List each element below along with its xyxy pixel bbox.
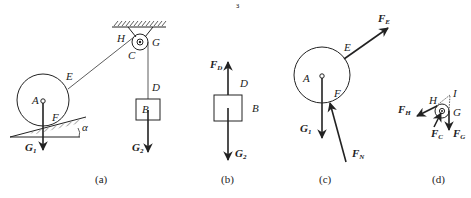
fn-arrow bbox=[330, 103, 346, 162]
fh-arrow bbox=[417, 106, 437, 116]
diagram-canvas: H G C E D B A F α G1 G2 (a) FD D B G2 (b… bbox=[0, 0, 471, 198]
label-g-d: G bbox=[453, 106, 461, 118]
label-a: A bbox=[31, 94, 39, 106]
label-d: D bbox=[151, 81, 160, 93]
label-fn: FN bbox=[351, 147, 365, 161]
label-d-b: D bbox=[239, 77, 248, 89]
caption-c: (c) bbox=[319, 173, 332, 186]
label-h-d: H bbox=[428, 94, 438, 106]
panel-c: FE E A F G1 FN (c) bbox=[294, 12, 390, 186]
label-g1: G1 bbox=[25, 141, 36, 155]
label-fe: FE bbox=[377, 12, 390, 26]
label-alpha: α bbox=[82, 121, 88, 133]
caption-b: (b) bbox=[221, 173, 234, 186]
label-g2: G2 bbox=[132, 141, 144, 155]
label-fg: FG bbox=[452, 127, 465, 141]
panel-d: H I G FH FC FG (d) bbox=[397, 87, 465, 186]
label-fh: FH bbox=[397, 103, 411, 117]
label-b-b: B bbox=[252, 102, 259, 114]
caption-d: (d) bbox=[432, 173, 445, 186]
label-e: E bbox=[65, 70, 73, 82]
label-c: C bbox=[128, 49, 136, 61]
label-f: F bbox=[51, 111, 59, 123]
label-f-c: F bbox=[333, 87, 341, 99]
caption-a: (a) bbox=[95, 173, 108, 186]
label-a-c: A bbox=[302, 72, 310, 84]
incline-plane bbox=[10, 117, 86, 137]
stray-mark: ɜ bbox=[236, 1, 240, 10]
panel-a: H G C E D B A F α G1 G2 (a) bbox=[10, 21, 166, 186]
pulley-c bbox=[132, 34, 148, 50]
rope-he bbox=[68, 37, 134, 89]
label-i: I bbox=[452, 87, 458, 99]
label-fc: FC bbox=[430, 127, 443, 141]
label-g1-c: G1 bbox=[300, 122, 311, 136]
panel-b: FD D B G2 (b) ɜ bbox=[209, 1, 259, 186]
label-g: G bbox=[152, 36, 160, 48]
label-e-c: E bbox=[343, 41, 351, 53]
label-b: B bbox=[142, 103, 149, 115]
label-fd: FD bbox=[209, 58, 222, 72]
fc-arrow bbox=[434, 113, 441, 127]
label-h: H bbox=[116, 32, 126, 44]
label-g2-b: G2 bbox=[235, 147, 247, 161]
